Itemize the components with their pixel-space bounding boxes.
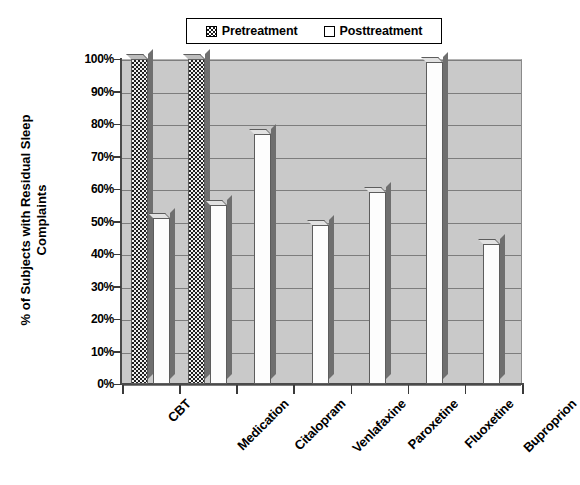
y-axis-tick-label: 100%: [66, 52, 114, 66]
x-axis-tick-label: Buproprion: [520, 396, 579, 455]
bar-posttreatment: [254, 134, 271, 384]
gridline: [122, 190, 521, 191]
y-axis-tick-label: 50%: [66, 215, 114, 229]
y-axis-tick-label: 90%: [66, 85, 114, 99]
x-axis-tick-label: Citalopram: [291, 396, 348, 453]
y-axis-tick-label: 60%: [66, 182, 114, 196]
bar-front-face: [131, 59, 148, 384]
y-axis-tick-mark: [113, 286, 121, 288]
y-axis-tick-label: 40%: [66, 247, 114, 261]
bar-pretreatment: [188, 59, 205, 384]
checkered-swatch-icon: [206, 26, 217, 37]
bar-front-face: [426, 62, 443, 384]
bar-front-face: [312, 225, 329, 384]
x-axis-tick-label: Fluoxetine: [462, 396, 517, 451]
bar-side-face: [271, 124, 276, 379]
bar-side-face: [170, 208, 175, 379]
y-axis-tick-mark: [113, 254, 121, 256]
legend-label-pretreatment: Pretreatment: [222, 24, 298, 38]
y-axis-tick-label: 0%: [66, 377, 114, 391]
gridline: [122, 125, 521, 126]
legend-item-posttreatment: Posttreatment: [324, 24, 423, 38]
y-axis-tick-mark: [113, 384, 121, 386]
bar-posttreatment: [210, 205, 227, 384]
y-axis-tick-mark: [113, 189, 121, 191]
x-axis-tick-mark: [408, 385, 410, 394]
bar-front-face: [210, 205, 227, 384]
bar-side-face: [500, 234, 505, 379]
gridline: [122, 93, 521, 94]
bar-posttreatment: [312, 225, 329, 384]
bar-posttreatment: [369, 192, 386, 384]
gridline: [122, 60, 521, 61]
y-axis-tick-label: 20%: [66, 312, 114, 326]
bar-front-face: [153, 218, 170, 384]
bar-side-face: [329, 215, 334, 379]
x-axis-tick-mark: [351, 385, 353, 394]
y-axis-tick-label: 30%: [66, 280, 114, 294]
y-axis-tick-labels: 100%90%80%70%60%50%40%30%20%10%0%: [62, 0, 114, 485]
y-axis-tick-label: 10%: [66, 345, 114, 359]
x-axis-tick-mark: [179, 385, 181, 394]
y-axis-tick-mark: [113, 124, 121, 126]
chart-legend: Pretreatment Posttreatment: [186, 18, 442, 44]
bar-posttreatment: [426, 62, 443, 384]
gridline: [122, 385, 521, 386]
bar-posttreatment: [153, 218, 170, 384]
y-axis-tick-mark: [113, 91, 121, 93]
bar-side-face: [443, 52, 448, 379]
y-axis-tick-label: 80%: [66, 117, 114, 131]
white-swatch-icon: [324, 26, 335, 37]
y-axis-tick-mark: [113, 319, 121, 321]
x-axis-tick-mark: [122, 385, 124, 394]
bar-posttreatment: [483, 244, 500, 384]
x-axis-tick-label: Medication: [234, 396, 291, 453]
x-axis-tick-mark: [293, 385, 295, 394]
bar-pretreatment: [131, 59, 148, 384]
legend-label-posttreatment: Posttreatment: [340, 24, 423, 38]
x-axis-tick-mark: [465, 385, 467, 394]
x-axis-tick-label: CBT: [165, 396, 194, 425]
y-axis-title: % of Subjects with Residual Sleep Compla…: [18, 55, 51, 385]
bar-front-face: [483, 244, 500, 384]
bar-front-face: [369, 192, 386, 384]
x-axis-tick-label: Paroxetine: [405, 396, 461, 452]
bar-side-face: [386, 182, 391, 379]
x-axis-tick-label: Venlafaxine: [349, 396, 409, 456]
y-axis-tick-mark: [113, 156, 121, 158]
y-axis-tick-mark: [113, 221, 121, 223]
y-axis-title-wrapper: % of Subjects with Residual Sleep Compla…: [8, 55, 60, 385]
x-axis-tick-mark: [522, 385, 524, 394]
y-axis-tick-mark: [113, 59, 121, 61]
legend-item-pretreatment: Pretreatment: [206, 24, 298, 38]
gridline: [122, 158, 521, 159]
x-axis-tick-mark: [236, 385, 238, 394]
y-axis-tick-label: 70%: [66, 150, 114, 164]
bar-side-face: [227, 195, 232, 379]
y-axis-tick-mark: [113, 351, 121, 353]
bar-front-face: [254, 134, 271, 384]
bar-front-face: [188, 59, 205, 384]
